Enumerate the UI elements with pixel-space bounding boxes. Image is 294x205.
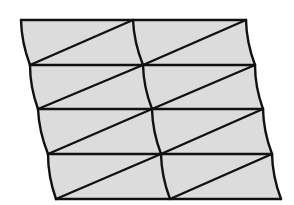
triangulated-mesh-diagram xyxy=(0,0,294,205)
